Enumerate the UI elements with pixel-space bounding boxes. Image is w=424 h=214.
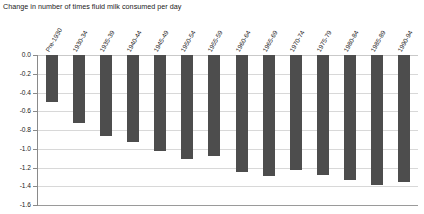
bar — [290, 55, 302, 170]
y-axis-tick-label: -1.2 — [1, 164, 31, 171]
gridline — [38, 149, 418, 150]
x-axis-labels: Pre-19301930-341935-391940-441945-491950… — [38, 0, 418, 55]
y-axis-tick — [33, 111, 37, 112]
y-axis-tick-label: -0.8 — [1, 126, 31, 133]
y-axis-tick-label: -1.4 — [1, 183, 31, 190]
y-axis-tick — [33, 55, 37, 56]
bar — [371, 55, 383, 185]
x-axis-tick-label: 1950-54 — [179, 29, 197, 53]
x-axis-tick-label: 1935-39 — [98, 29, 116, 53]
gridline — [38, 74, 418, 75]
y-axis-tick-label: -0.2 — [1, 70, 31, 77]
plot-area — [38, 55, 418, 205]
y-axis-tick — [33, 168, 37, 169]
bar — [100, 55, 112, 136]
y-axis-tick-label: -0.4 — [1, 89, 31, 96]
x-axis-tick-label: 1960-64 — [234, 29, 252, 53]
gridline — [38, 130, 418, 131]
bar — [208, 55, 220, 156]
y-axis-tick — [33, 93, 37, 94]
gridline — [38, 93, 418, 94]
y-axis-tick-label: 0.0 — [1, 51, 31, 58]
x-axis-tick-label: 1975-79 — [315, 29, 333, 53]
gridline — [38, 55, 418, 56]
x-axis-tick-label: Pre-1930 — [44, 27, 63, 53]
bar — [263, 55, 275, 176]
x-axis-tick-label: 1980-84 — [342, 29, 360, 53]
bar — [344, 55, 356, 180]
y-axis-tick — [33, 74, 37, 75]
y-axis-labels: 0.0-0.2-0.4-0.6-0.8-1.0-1.2-1.4-1.6 — [0, 55, 31, 206]
bar — [46, 55, 58, 102]
bar — [73, 55, 85, 123]
x-axis-tick-label: 1970-74 — [288, 29, 306, 53]
x-axis-tick-label: 1965-69 — [261, 29, 279, 53]
x-axis-tick-label: 1940-44 — [125, 29, 143, 53]
bar — [181, 55, 193, 159]
x-axis-tick-label: 1955-59 — [206, 29, 224, 53]
bar — [317, 55, 329, 175]
y-axis-tick — [33, 205, 37, 206]
gridline — [38, 111, 418, 112]
x-axis-tick-label: 1945-49 — [152, 29, 170, 53]
y-axis-tick-label: -0.6 — [1, 108, 31, 115]
bar — [127, 55, 139, 142]
x-axis-tick-label: 1985-89 — [369, 29, 387, 53]
y-axis-tick — [33, 149, 37, 150]
bar — [398, 55, 410, 182]
y-axis-tick — [33, 130, 37, 131]
bar — [154, 55, 166, 151]
y-axis-tick — [33, 186, 37, 187]
gridline — [38, 168, 418, 169]
x-axis-tick-label: 1930-34 — [71, 29, 89, 53]
x-axis-tick-label: 1990-94 — [396, 29, 414, 53]
gridline — [38, 205, 418, 206]
gridline — [38, 186, 418, 187]
y-axis-tick-label: -1.0 — [1, 145, 31, 152]
chart-container: Change in number of times fluid milk con… — [0, 0, 424, 214]
y-axis-tick-label: -1.6 — [1, 201, 31, 208]
bar — [236, 55, 248, 172]
